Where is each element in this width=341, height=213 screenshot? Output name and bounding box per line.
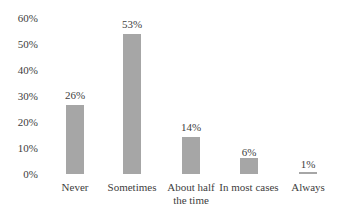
bar-always (299, 172, 317, 174)
bar-sometimes (123, 34, 141, 174)
y-tick: 60% (0, 12, 38, 24)
bar-in-most-cases (240, 158, 258, 174)
y-tick: 10% (0, 142, 38, 154)
y-tick: 20% (0, 116, 38, 128)
y-tick: 30% (0, 90, 38, 102)
y-tick: 0% (0, 168, 38, 180)
value-label: 53% (102, 18, 162, 30)
value-label: 6% (219, 146, 279, 158)
y-tick: 50% (0, 38, 38, 50)
x-label-line: the time (156, 194, 226, 207)
value-label: 1% (278, 158, 338, 170)
bar-about-half (182, 137, 200, 174)
value-label: 26% (45, 89, 105, 101)
y-tick: 40% (0, 64, 38, 76)
x-label: Always (273, 181, 341, 194)
value-label: 14% (161, 121, 221, 133)
bar-never (66, 105, 84, 174)
